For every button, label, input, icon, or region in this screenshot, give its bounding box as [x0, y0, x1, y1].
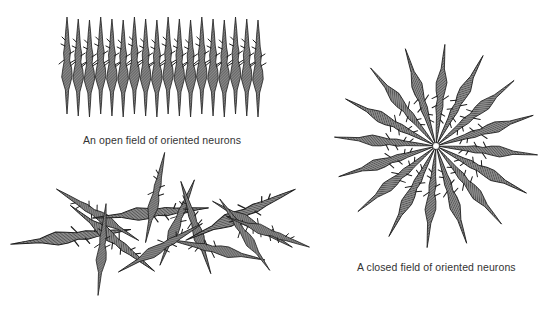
closed-field-caption: A closed field of oriented neurons: [357, 261, 516, 273]
neuron-icon: [104, 19, 120, 116]
neuron-icon: [138, 19, 154, 116]
random-field-neurons: [9, 151, 312, 296]
neuron-icon: [194, 17, 210, 114]
neuron-icon: [216, 20, 232, 117]
neuron-icon: [250, 20, 266, 117]
neuron-icon: [228, 17, 244, 114]
neuron-icon: [93, 17, 109, 114]
neuron-icon: [239, 19, 255, 116]
neuron-icon: [115, 20, 131, 117]
neuron-icon: [81, 20, 97, 117]
open-field-caption: An open field of oriented neurons: [83, 134, 241, 146]
neuron-icon: [138, 151, 172, 244]
closed-field-neurons: [334, 44, 539, 249]
neuron-icon: [171, 19, 187, 116]
open-field-neurons: [59, 17, 266, 117]
neuron-icon: [183, 20, 199, 117]
neuron-icon: [59, 17, 75, 114]
neuron-icon: [126, 17, 142, 114]
neuron-icon: [205, 19, 221, 116]
neuron-icon: [149, 20, 165, 117]
neuron-icon: [160, 17, 176, 114]
neuron-icon: [70, 19, 86, 116]
